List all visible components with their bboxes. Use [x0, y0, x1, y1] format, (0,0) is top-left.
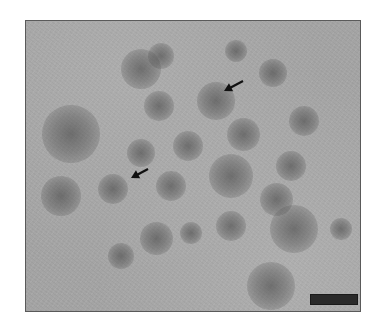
scale-bar	[310, 294, 358, 305]
arrow-upper-icon	[224, 81, 243, 91]
bleed-through-text	[30, 0, 370, 6]
arrow-lower-icon	[131, 169, 148, 178]
arrow-layer	[26, 21, 361, 312]
micrograph-panel	[25, 20, 361, 312]
